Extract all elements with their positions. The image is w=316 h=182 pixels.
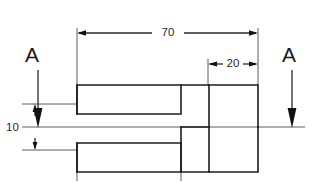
cad-drawing-svg: 70 20 10 A A <box>0 0 316 182</box>
right-boss-lower <box>209 127 258 172</box>
section-mark-a-left: A <box>25 43 42 128</box>
right-boss-upper <box>209 85 258 127</box>
lower-body-profile <box>77 143 181 172</box>
extension-lines <box>22 28 258 181</box>
dimension-value-20: 20 <box>227 57 240 69</box>
arrowhead-10-down <box>33 142 38 150</box>
neck-profile-upper <box>181 85 209 127</box>
arrowhead-70-left <box>77 30 86 36</box>
arrowhead-70-right <box>249 30 258 36</box>
dimension-overall-length: 70 <box>77 26 258 38</box>
section-arrowhead-right <box>288 108 297 128</box>
section-label-a-right: A <box>282 43 296 66</box>
section-mark-a-right: A <box>282 43 296 128</box>
dimension-step-length: 20 <box>208 57 258 69</box>
upper-body-profile <box>77 85 181 114</box>
section-label-a-left: A <box>25 43 39 66</box>
arrowhead-20-right <box>249 61 258 66</box>
engineering-drawing-canvas: 70 20 10 A A <box>0 0 316 182</box>
neck-profile-lower <box>181 127 209 172</box>
arrowhead-20-left <box>208 61 217 66</box>
dimension-value-70: 70 <box>162 26 175 38</box>
part-outline <box>77 85 258 172</box>
section-arrowhead-left <box>34 108 43 128</box>
dimension-value-10: 10 <box>6 121 19 133</box>
